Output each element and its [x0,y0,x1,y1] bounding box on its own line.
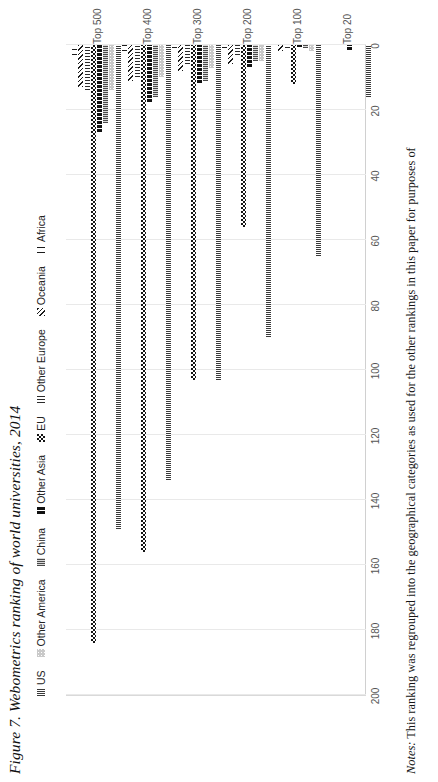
rotated-figure-wrapper: Figure 7. Webometrics ranking of world u… [0,0,438,782]
category-label: Top 500 [92,8,103,44]
legend-swatch-icon [37,558,45,566]
legend-label: EU [36,416,47,431]
value-axis-ticks: 020406080100120140160180200 [370,46,386,696]
bar-africa [122,45,127,52]
bar-africa [222,45,227,48]
bar-oceania [78,45,83,87]
bar-group-top-20 [316,45,366,695]
bar-china [203,45,208,81]
bar-othereurope [135,45,140,78]
bar-eu [291,45,296,84]
figure-canvas: Figure 7. Webometrics ranking of world u… [0,0,438,782]
legend-label: Oceania [36,266,47,305]
legend-item-oceania: Oceania [36,266,47,316]
bar-china [153,45,158,97]
legend-swatch-icon [37,308,45,316]
legend-item-eu: EU [36,416,47,442]
bar-otheramerica [259,45,264,61]
bar-china [303,45,308,48]
value-tick-label: 60 [370,235,381,246]
bar-othereurope [235,45,240,55]
legend-item-africa: Africa [36,215,47,253]
bar-otherasia [297,45,302,48]
notes-label: Notes: [404,742,418,774]
bar-group-top-300 [166,45,216,695]
bar-otherasia [247,45,252,68]
bar-us [316,45,321,256]
bar-othereurope [185,45,190,65]
figure-page: Figure 7. Webometrics ranking of world u… [0,0,438,782]
bar-africa [172,45,177,48]
bar-otheramerica [159,45,164,78]
value-tick-label: 20 [370,105,381,116]
legend-swatch-icon [37,507,45,515]
legend-item-otheramerica: Other America [36,579,47,657]
bar-us [116,45,121,529]
value-tick-label: 180 [370,623,381,640]
bar-us [166,45,171,481]
bar-otheramerica [309,45,314,52]
bar-oceania [278,45,283,52]
notes-text: This ranking was regrouped into the geog… [404,147,418,741]
bar-otheramerica [109,45,114,91]
bar-otherasia [197,45,202,84]
bar-othereurope [285,45,290,48]
legend-item-us: US [36,670,47,696]
bar-group-top-200 [216,45,266,695]
bar-china [253,45,258,61]
bar-us [266,45,271,338]
figure-title: Figure 7. Webometrics ranking of world u… [6,406,24,774]
legend-label: Other Asia [36,455,47,504]
category-label: Top 20 [342,14,353,44]
value-tick-label: 80 [370,300,381,311]
bar-us [216,45,221,380]
bar-group-top-100 [266,45,316,695]
legend-label: US [36,670,47,685]
bar-oceania [178,45,183,71]
bar-eu [91,45,96,643]
value-tick-label: 120 [370,428,381,445]
legend-item-china: China [36,528,47,566]
bar-eu [191,45,196,380]
legend-label: Africa [36,215,47,242]
category-label: Top 400 [142,8,153,44]
bar-otherasia [347,45,352,52]
value-tick-label: 160 [370,558,381,575]
legend-swatch-icon [37,245,45,253]
bar-oceania [228,45,233,65]
legend-swatch-icon [37,395,45,403]
bar-eu [141,45,146,552]
legend-label: Other America [36,579,47,646]
value-tick-label: 100 [370,363,381,380]
legend-item-otherasia: Other Asia [36,455,47,515]
plot-area [66,45,366,696]
bar-china [103,45,108,123]
category-label: Top 300 [192,8,203,44]
category-label: Top 200 [242,8,253,44]
bar-group-top-500 [66,45,116,695]
legend-swatch-icon [37,434,45,442]
value-tick-label: 140 [370,493,381,510]
bar-group-top-400 [116,45,166,695]
legend-label: China [36,528,47,555]
chart-legend: USOther AmericaChinaOther AsiaEUOther Eu… [36,215,47,696]
value-tick-label: 200 [370,688,381,705]
bar-otherasia [147,45,152,104]
bar-oceania [128,45,133,81]
bar-otheramerica [209,45,214,68]
bar-otherasia [97,45,102,133]
legend-swatch-icon [37,649,45,657]
value-tick-label: 40 [370,170,381,181]
category-label: Top 100 [292,8,303,44]
bar-othereurope [85,45,90,91]
legend-swatch-icon [37,688,45,696]
value-tick-label: 0 [370,43,381,49]
bar-eu [241,45,246,227]
legend-item-othereurope: Other Europe [36,329,47,403]
bar-africa [72,45,77,55]
figure-notes: Notes: This ranking was regrouped into t… [404,8,420,774]
legend-label: Other Europe [36,329,47,392]
